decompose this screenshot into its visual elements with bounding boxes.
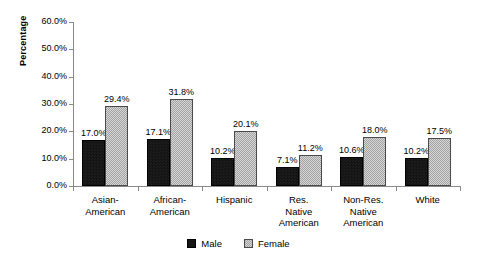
y-axis-tick-label: 20.0% [41,125,67,136]
bar-female-0 [105,106,128,186]
x-axis-category-label: Hispanic [202,194,267,206]
y-axis-tick-mark [69,22,74,23]
y-axis-tick-label: 60.0% [41,16,67,27]
bar-value-label: 20.1% [226,119,265,129]
bar-male-4 [340,157,363,186]
legend-item-male[interactable]: Male [187,238,222,249]
bar-female-1 [170,99,193,186]
x-axis-category-label: Non-Res. Native American [331,194,396,229]
y-axis-tick-label: 10.0% [41,153,67,164]
x-axis-tick-mark [202,186,203,191]
bar-male-2 [211,158,234,186]
x-axis-tick-mark [396,186,397,191]
x-axis-category-label: Asian- American [73,194,138,217]
y-axis-tick-mark [69,104,74,105]
bar-male-5 [405,158,428,186]
x-axis-category-label: African- American [138,194,203,217]
x-axis-tick-mark [267,186,268,191]
bar-male-1 [147,139,170,186]
bar-female-3 [299,155,322,186]
bar-value-label: 17.5% [420,126,459,136]
bar-value-label: 18.0% [355,125,394,135]
x-axis-tick-mark [331,186,332,191]
x-axis-category-label: Res. Native American [267,194,332,229]
y-axis-tick-mark [69,49,74,50]
y-axis-tick-mark [69,77,74,78]
y-axis-tick-mark [69,159,74,160]
y-axis-tick-label: 30.0% [41,98,67,109]
y-axis-tick-mark [69,131,74,132]
x-axis-category-label: White [396,194,461,206]
y-axis-title: Percentage [18,15,28,66]
chart-page: Percentage 0.0%10.0%20.0%30.0%40.0%50.0%… [0,0,477,262]
legend-item-female[interactable]: Female [244,238,290,249]
x-axis-tick-mark [460,186,461,191]
legend-label: Female [258,238,290,249]
bar-female-4 [363,137,386,186]
legend-swatch-icon [244,239,253,248]
x-axis-tick-mark [73,186,74,191]
plot-area: 0.0%10.0%20.0%30.0%40.0%50.0%60.0% 17.0%… [73,22,460,186]
legend-swatch-icon [187,239,196,248]
bar-value-label: 29.4% [97,94,136,104]
chart-legend: MaleFemale [0,238,477,249]
bar-female-2 [234,131,257,186]
bar-female-5 [428,138,451,186]
y-axis-tick-label: 40.0% [41,71,67,82]
bar-male-3 [276,167,299,186]
y-axis-tick-label: 50.0% [41,43,67,54]
bar-male-0 [82,140,105,186]
bar-value-label: 31.8% [162,87,201,97]
y-axis-tick-label: 0.0% [46,180,67,191]
bar-value-label: 11.2% [291,143,330,153]
legend-label: Male [201,238,222,249]
x-axis-tick-mark [138,186,139,191]
